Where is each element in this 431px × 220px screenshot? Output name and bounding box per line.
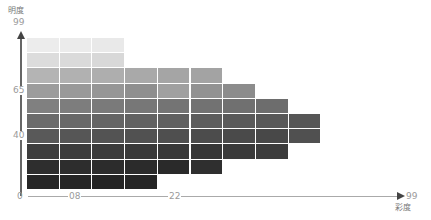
color-cell	[92, 144, 124, 158]
color-cell	[60, 114, 92, 128]
y-tick-40: 40	[13, 131, 24, 140]
origin-tick: 0	[17, 192, 23, 201]
x-axis-line	[28, 196, 398, 198]
color-cell	[289, 129, 321, 143]
color-cell	[27, 144, 59, 158]
color-cell	[223, 129, 255, 143]
color-cell	[191, 114, 223, 128]
color-cell	[223, 144, 255, 158]
color-cell	[27, 38, 59, 52]
color-cell	[158, 160, 190, 174]
color-cell	[60, 144, 92, 158]
color-cell	[27, 53, 59, 67]
y-axis-line	[20, 38, 22, 196]
color-cell	[60, 38, 92, 52]
color-cell	[158, 84, 190, 98]
color-cell	[27, 114, 59, 128]
x-tick-22: 22	[168, 192, 181, 201]
color-cell	[27, 129, 59, 143]
color-cell	[27, 84, 59, 98]
color-cell	[125, 68, 157, 82]
color-cell	[60, 129, 92, 143]
x-tick-99: 99	[406, 192, 417, 201]
color-cell	[158, 129, 190, 143]
color-cell	[256, 99, 288, 113]
color-cell	[125, 160, 157, 174]
color-cell	[191, 99, 223, 113]
color-cell	[191, 160, 223, 174]
color-cell	[158, 144, 190, 158]
color-cell	[256, 144, 288, 158]
color-cell	[125, 114, 157, 128]
color-cell	[191, 84, 223, 98]
x-tick-08: 08	[68, 192, 81, 201]
color-cell	[125, 175, 157, 189]
color-cell	[158, 114, 190, 128]
color-cell	[92, 84, 124, 98]
color-cell	[223, 114, 255, 128]
color-cell	[92, 114, 124, 128]
color-cell	[60, 99, 92, 113]
color-cell	[92, 68, 124, 82]
color-cell	[92, 129, 124, 143]
y-axis-arrow-icon	[17, 31, 25, 39]
color-cell	[125, 129, 157, 143]
color-cell	[60, 84, 92, 98]
color-cell	[223, 84, 255, 98]
color-cell	[92, 38, 124, 52]
color-cell	[223, 99, 255, 113]
color-cell	[92, 175, 124, 189]
color-cell	[92, 99, 124, 113]
color-cell	[158, 99, 190, 113]
color-cell	[27, 99, 59, 113]
color-cell	[256, 114, 288, 128]
color-cell	[27, 160, 59, 174]
color-cell	[158, 68, 190, 82]
color-cell	[60, 175, 92, 189]
color-cell	[125, 99, 157, 113]
color-cell	[60, 160, 92, 174]
color-cell	[60, 53, 92, 67]
color-cell	[92, 160, 124, 174]
color-cell	[191, 129, 223, 143]
color-cell	[60, 68, 92, 82]
color-cell	[27, 175, 59, 189]
color-cell	[191, 68, 223, 82]
y-tick-65: 65	[13, 86, 24, 95]
color-cell	[125, 84, 157, 98]
color-cell	[191, 144, 223, 158]
x-axis-label: 彩度	[395, 204, 411, 212]
y-axis-label: 明度	[8, 7, 24, 15]
y-tick-99: 99	[13, 18, 24, 27]
color-cell	[125, 144, 157, 158]
color-cell	[92, 53, 124, 67]
x-axis-arrow-icon	[397, 192, 405, 200]
color-cell	[27, 68, 59, 82]
color-cell	[256, 129, 288, 143]
color-cell	[289, 114, 321, 128]
